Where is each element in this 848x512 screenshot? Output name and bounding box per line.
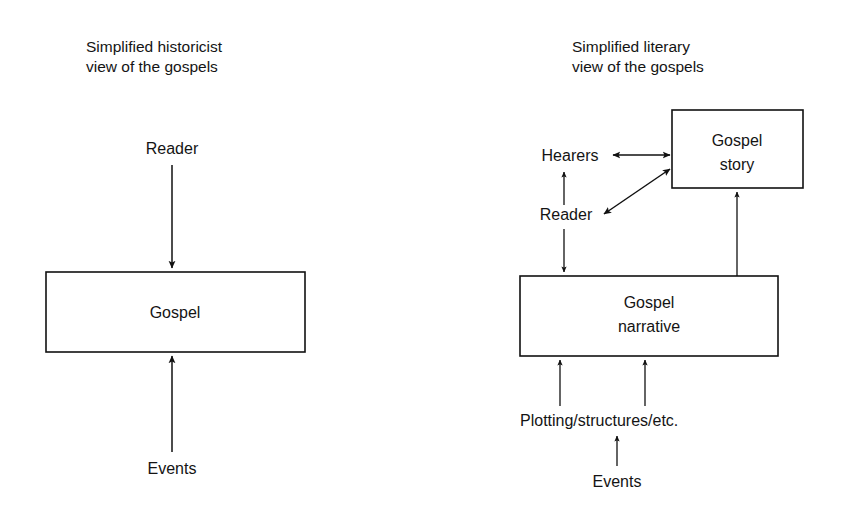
historicist-label-reader: Reader bbox=[146, 140, 199, 157]
historicist-label-events: Events bbox=[148, 460, 197, 477]
box-gospel-narrative-label-line1: Gospel bbox=[624, 294, 675, 311]
literary-title-line1: Simplified literary bbox=[572, 38, 690, 55]
box-gospel-story-label-line2: story bbox=[720, 156, 755, 173]
figure-root: Simplified historicist view of the gospe… bbox=[0, 0, 848, 512]
literary-label-hearers: Hearers bbox=[542, 147, 599, 164]
panel-literary: Simplified literary view of the gospels … bbox=[520, 38, 803, 490]
literary-label-events: Events bbox=[593, 473, 642, 490]
historicist-title-line2: view of the gospels bbox=[86, 58, 218, 75]
literary-label-reader: Reader bbox=[540, 206, 593, 223]
box-gospel-narrative bbox=[520, 276, 778, 356]
box-gospel-label: Gospel bbox=[150, 304, 201, 321]
edge-reader-gospel-story bbox=[604, 169, 670, 214]
box-gospel-narrative-label-line2: narrative bbox=[618, 318, 680, 335]
panel-historicist: Simplified historicist view of the gospe… bbox=[46, 38, 305, 477]
literary-label-plotting: Plotting/structures/etc. bbox=[520, 412, 678, 429]
literary-title-line2: view of the gospels bbox=[572, 58, 704, 75]
box-gospel-story bbox=[672, 110, 803, 188]
diagram-canvas: Simplified historicist view of the gospe… bbox=[0, 0, 848, 512]
box-gospel-story-label-line1: Gospel bbox=[712, 132, 763, 149]
historicist-title-line1: Simplified historicist bbox=[86, 38, 223, 55]
